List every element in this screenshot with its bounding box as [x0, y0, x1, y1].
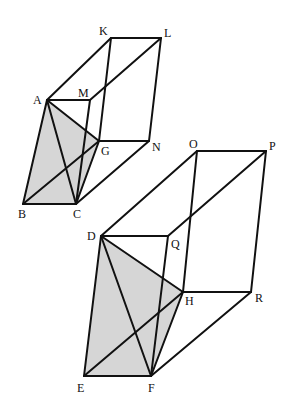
edge-pr	[251, 151, 266, 292]
label-p: P	[269, 139, 276, 153]
label-r: R	[255, 291, 263, 305]
label-k: K	[99, 24, 108, 38]
label-n: N	[152, 140, 161, 154]
label-o: O	[189, 137, 198, 151]
label-f: F	[148, 381, 155, 395]
upper-prism: K L A M G N B C	[18, 24, 171, 221]
label-e: E	[77, 381, 84, 395]
lower-prism: O P D Q H R E F	[77, 137, 276, 395]
label-a: A	[33, 93, 42, 107]
label-h: H	[185, 294, 194, 308]
label-g: G	[101, 144, 110, 158]
edge-ln	[149, 38, 161, 141]
label-c: C	[73, 207, 81, 221]
label-d: D	[87, 229, 96, 243]
label-l: L	[164, 26, 171, 40]
label-q: Q	[171, 237, 180, 251]
geometry-diagram: K L A M G N B C O P D Q H R E F	[0, 0, 293, 414]
label-b: B	[18, 207, 26, 221]
label-m: M	[78, 86, 89, 100]
